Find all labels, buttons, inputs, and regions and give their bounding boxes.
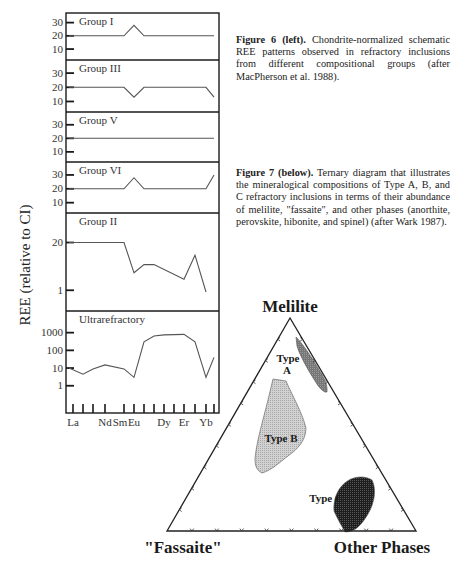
- apex-label-other-phases: Other Phases: [334, 538, 431, 557]
- figure-7-caption: Figure 7 (below). Ternary diagram that i…: [236, 167, 450, 228]
- panel-group-vi: Group VI102030: [52, 162, 219, 208]
- y-tick-label: 20: [52, 29, 64, 41]
- y-tick-label: 1: [58, 284, 64, 296]
- ree-series-line: [69, 87, 214, 97]
- y-tick-label: 1000: [41, 326, 64, 338]
- x-tick-label: Dy: [157, 416, 171, 428]
- figure-6-caption-label: Figure 6 (left).: [236, 34, 306, 45]
- y-axis-label: REE (relative to CI): [17, 204, 34, 325]
- y-tick-label: 20: [52, 236, 64, 248]
- panel-title: Group V: [79, 114, 118, 126]
- y-tick-label: 30: [52, 118, 64, 130]
- ree-series-line: [69, 334, 214, 377]
- region-label: Type C: [309, 492, 343, 504]
- y-tick-label: 30: [52, 67, 64, 79]
- panel-group-iii: Group III102030: [52, 60, 219, 107]
- y-tick-label: 10: [52, 362, 64, 374]
- figure-7-caption-label: Figure 7 (below).: [236, 167, 313, 178]
- apex-label-fassaite: "Fassaite": [144, 538, 221, 557]
- y-tick-label: 20: [52, 81, 64, 93]
- region-label: A: [283, 364, 291, 376]
- x-tick-label: La: [67, 416, 79, 428]
- x-tick-label: Er: [179, 416, 190, 428]
- region-type-b: [255, 379, 306, 473]
- panel-group-i: Group I102030: [52, 15, 214, 55]
- panel-title: Ultrarefractory: [79, 313, 145, 325]
- region-label: Type: [276, 352, 299, 364]
- x-tick-label: Sm: [113, 416, 128, 428]
- y-tick-label: 30: [52, 16, 64, 28]
- figure-6-caption: Figure 6 (left). Chondrite-normalized sc…: [236, 34, 450, 83]
- ree-series-line: [69, 175, 214, 189]
- y-tick-label: 20: [52, 132, 64, 144]
- panel-title: Group I: [79, 15, 114, 27]
- ree-series-line: [69, 243, 206, 293]
- y-tick-label: 30: [52, 168, 64, 180]
- y-tick-label: 20: [52, 182, 64, 194]
- apex-label-melilite: Melilite: [262, 297, 318, 316]
- region-type-c: [334, 477, 375, 532]
- region-label: Type B: [264, 432, 298, 444]
- figure-canvas: REE (relative to CI) Group I102030Group …: [0, 0, 455, 561]
- y-tick-label: 10: [52, 145, 64, 157]
- panel-ultrarefractory: Ultrarefractory1101001000: [41, 311, 219, 391]
- panel-title: Group VI: [79, 164, 122, 176]
- y-tick-label: 10: [52, 43, 64, 55]
- panel-title: Group III: [79, 62, 121, 74]
- x-tick-label: Eu: [128, 416, 141, 428]
- y-tick-label: 100: [47, 344, 64, 356]
- y-tick-label: 10: [52, 196, 64, 208]
- ree-pattern-chart: REE (relative to CI) Group I102030Group …: [17, 13, 219, 428]
- x-tick-label: Yb: [199, 416, 213, 428]
- panel-title: Group II: [79, 215, 118, 227]
- y-tick-label: 1: [58, 379, 64, 391]
- panel-group-ii: Group II120: [52, 213, 219, 296]
- y-tick-label: 10: [52, 95, 64, 107]
- x-tick-label: Nd: [98, 416, 112, 428]
- region-type-a: [296, 337, 327, 392]
- panel-group-v: Group V102030: [52, 112, 219, 157]
